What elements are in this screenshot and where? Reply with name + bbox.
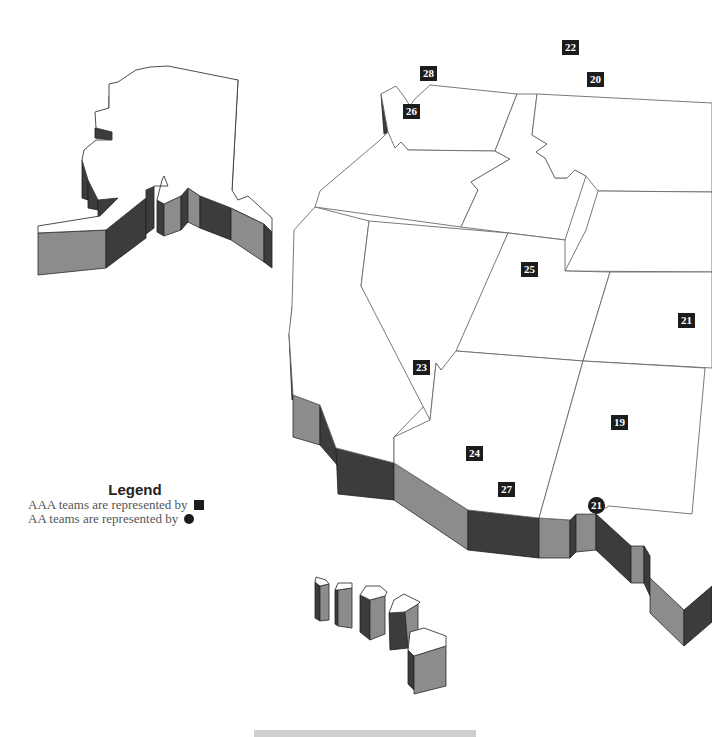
state-wyoming xyxy=(565,191,712,272)
team-marker-aaa-20[interactable]: 20 xyxy=(587,72,604,87)
team-marker-aaa-24[interactable]: 24 xyxy=(466,446,483,461)
team-marker-aaa-19[interactable]: 19 xyxy=(611,415,628,430)
hawaii-region xyxy=(315,577,446,694)
team-marker-aa-21[interactable]: 21 xyxy=(588,497,605,514)
scrollbar[interactable] xyxy=(254,730,476,737)
legend: Legend AAA teams are represented by AA t… xyxy=(40,481,210,526)
state-montana xyxy=(532,94,712,192)
legend-aa-label: AA teams are represented by xyxy=(28,511,178,526)
legend-row-aaa: AAA teams are represented by xyxy=(28,498,210,512)
team-marker-aaa-22[interactable]: 22 xyxy=(562,40,579,55)
state-washington xyxy=(381,85,517,151)
team-marker-aaa-23[interactable]: 23 xyxy=(413,360,430,375)
team-marker-aaa-27[interactable]: 27 xyxy=(498,482,515,497)
circle-icon xyxy=(184,514,194,524)
team-marker-aaa-26[interactable]: 26 xyxy=(403,104,420,119)
legend-title: Legend xyxy=(60,481,210,498)
team-marker-aaa-21[interactable]: 21 xyxy=(678,313,695,328)
alaska-region xyxy=(38,66,272,275)
team-marker-aaa-25[interactable]: 25 xyxy=(521,262,538,277)
team-marker-aaa-28[interactable]: 28 xyxy=(420,66,437,81)
legend-row-aa: AA teams are represented by xyxy=(28,512,210,526)
legend-aaa-label: AAA teams are represented by xyxy=(28,497,188,512)
map-canvas xyxy=(0,0,712,737)
square-icon xyxy=(194,500,204,510)
